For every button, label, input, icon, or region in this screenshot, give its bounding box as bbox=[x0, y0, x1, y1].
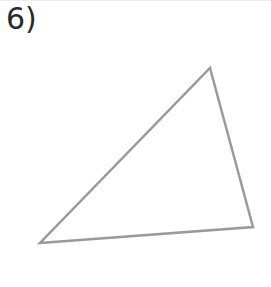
triangle-figure bbox=[0, 0, 271, 287]
triangle bbox=[40, 68, 253, 243]
